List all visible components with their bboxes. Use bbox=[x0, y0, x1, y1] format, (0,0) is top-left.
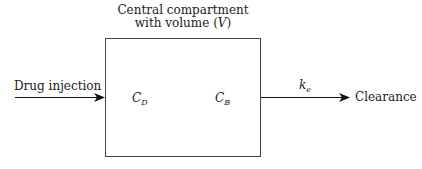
output-label: Clearance bbox=[355, 91, 417, 104]
rate-constant-ke: ke bbox=[299, 79, 311, 96]
concentration-cd: CD bbox=[132, 92, 148, 109]
input-arrow-icon bbox=[15, 93, 105, 102]
input-label: Drug injection bbox=[14, 80, 101, 93]
concentration-cb: CB bbox=[215, 92, 230, 109]
